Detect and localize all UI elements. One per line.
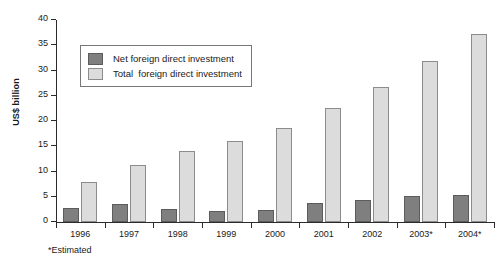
x-tick-label-1999: 1999	[202, 229, 251, 240]
legend-label-total: Total foreign direct investment	[113, 68, 242, 80]
bar-total-2004-est	[471, 34, 487, 222]
bar-total-1998	[179, 151, 195, 222]
bar-net-1996	[63, 208, 79, 222]
x-tick-label-2000: 2000	[251, 229, 300, 240]
x-tick-mark	[445, 222, 446, 228]
x-tick-label-1996: 1996	[56, 229, 105, 240]
bar-net-2001	[307, 203, 323, 222]
x-tick-label-2003-est: 2003*	[397, 229, 446, 240]
bar-net-1997	[112, 204, 128, 222]
bar-total-2002	[373, 87, 389, 222]
x-tick-mark	[494, 222, 495, 228]
x-tick-label-2002: 2002	[348, 229, 397, 240]
y-tick-label: 20	[38, 114, 48, 124]
x-tick-label-2001: 2001	[299, 229, 348, 240]
bar-net-1999	[209, 211, 225, 222]
legend-item-net: Net foreign direct investment	[88, 51, 242, 66]
bar-total-1996	[81, 182, 97, 222]
y-tick-label: 30	[38, 64, 48, 74]
bar-net-2004-est	[453, 195, 469, 222]
x-tick-mark	[105, 222, 106, 228]
bar-net-1998	[161, 209, 177, 222]
bar-net-2000	[258, 210, 274, 222]
legend-label-net: Net foreign direct investment	[113, 53, 234, 65]
legend: Net foreign direct investment Total fore…	[80, 45, 252, 87]
x-tick-label-2004-est: 2004*	[445, 229, 494, 240]
bar-chart: US$ billion 0510152025303540 19961997199…	[0, 0, 503, 272]
footnote-estimated: *Estimated	[48, 245, 92, 256]
x-tick-mark	[153, 222, 154, 228]
y-axis-title: US$ billion	[11, 62, 21, 142]
legend-swatch-net-icon	[88, 53, 103, 65]
y-tick-label: 25	[38, 89, 48, 99]
y-tick-label: 0	[43, 215, 48, 225]
legend-swatch-total-icon	[88, 68, 103, 80]
x-axis-line	[56, 222, 495, 223]
x-tick-mark	[251, 222, 252, 228]
bar-total-1997	[130, 165, 146, 222]
x-tick-mark	[202, 222, 203, 228]
bar-total-2001	[325, 108, 341, 222]
y-tick-label: 5	[43, 190, 48, 200]
bar-total-2000	[276, 128, 292, 222]
x-tick-mark	[299, 222, 300, 228]
y-tick-label: 15	[38, 139, 48, 149]
x-tick-mark	[397, 222, 398, 228]
y-tick-label: 10	[38, 165, 48, 175]
bar-total-2003-est	[422, 61, 438, 222]
x-tick-label-1997: 1997	[105, 229, 154, 240]
bar-net-2003-est	[404, 196, 420, 222]
x-tick-mark	[56, 222, 57, 228]
y-tick-label: 35	[38, 38, 48, 48]
bar-net-2002	[355, 200, 371, 222]
x-tick-label-1998: 1998	[153, 229, 202, 240]
y-tick-label: 40	[38, 13, 48, 23]
legend-item-total: Total foreign direct investment	[88, 66, 242, 81]
x-tick-mark	[348, 222, 349, 228]
bar-total-1999	[227, 141, 243, 222]
